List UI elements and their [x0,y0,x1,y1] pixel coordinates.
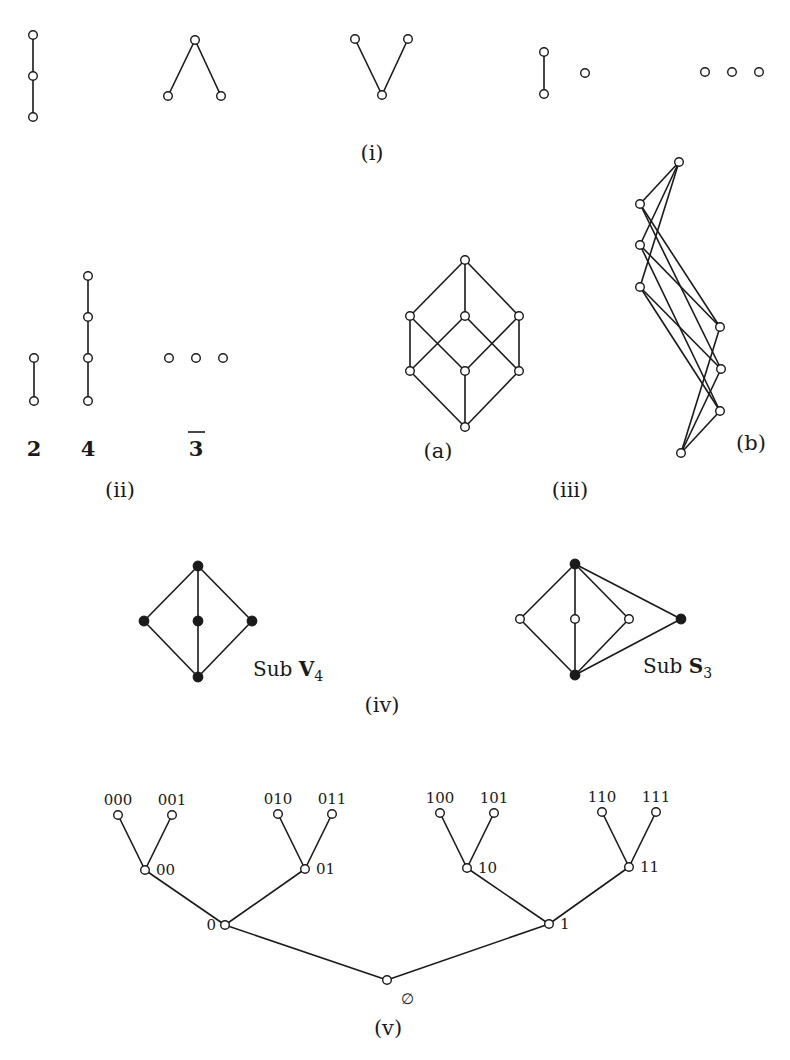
cube-a-edge [465,260,519,316]
vee-edge [355,39,382,95]
antichain-3-node [701,68,710,77]
caption-b: (b) [736,431,766,455]
poset-figure: (i) 2 4 3 (ii) (a) (b) (iii) Sub V4 Sub … [0,0,790,1060]
antichain-3-node [728,68,737,77]
label-sub-s3: Sub S3 [643,654,712,681]
label-chain-2: 2 [27,436,42,461]
antichain-3-node [219,354,228,363]
chain-4-node [84,272,93,281]
tree-edge [602,812,629,867]
cube-a-node [461,256,470,265]
label-sub-v4-symbol: V [298,657,315,681]
sub-s3-edge [575,619,629,675]
sub-s3-node [676,614,686,624]
cube-b-node [636,241,645,250]
cube-a-node [406,367,415,376]
tree-node-00 [141,866,150,875]
cube-b-edge [640,287,720,411]
tree-node-100 [436,809,445,818]
sub-s3-edge [520,619,575,675]
chain-3-node [29,72,38,81]
chain-2-plus-point-node [540,48,549,57]
tree-edge [118,815,145,870]
sub-s3-edge [520,564,575,619]
chain-2-node [30,354,39,363]
cube-a-node [461,312,470,321]
tree-node-1 [545,920,554,929]
cube-a-node [461,423,470,432]
lambda-edge [195,40,221,96]
cube-a-edge [410,371,465,427]
tree-node-10 [463,864,472,873]
tree-node-0 [221,921,230,930]
tree-label-11: 11 [640,858,659,876]
sub-v4-edge [144,566,198,621]
cube-a-node [515,312,524,321]
sub-v4-node [193,561,203,571]
cube-b-node [636,283,645,292]
sub-v4-edge [198,566,252,621]
tree-label-111: 111 [642,788,671,806]
label-chain-4: 4 [81,436,96,461]
cube-b-node [675,158,684,167]
vee-node [404,35,413,44]
cube-b-node [716,407,725,416]
tree-edge [225,925,387,980]
tree-label-00: 00 [156,861,175,879]
tree-label-101: 101 [480,789,509,807]
tree-node-001 [168,811,177,820]
tree-label-110: 110 [588,788,617,806]
tree-label-010: 010 [264,790,293,808]
caption-a: (a) [424,439,453,463]
antichain-3-node [755,68,764,77]
sub-v4-node [247,616,257,626]
cube-b-edge [640,162,679,287]
sub-v4-edge [144,621,198,677]
lambda-node [191,36,200,45]
sub-s3-node [570,670,580,680]
lambda-node [164,92,173,101]
label-sub-v4-prefix: Sub [253,657,299,681]
edges-layer [33,35,721,980]
sub-v4-node [139,616,149,626]
label-sub-s3-symbol: S [689,654,703,678]
label-sub-s3-prefix: Sub [643,654,689,678]
sub-s3-node [625,615,634,624]
cube-b-edge [640,287,721,369]
tree-label-001: 001 [158,791,187,809]
sub-s3-edge [575,564,681,619]
sub-v4-edge [198,621,252,677]
tree-label-000: 000 [104,791,133,809]
tree-node-01 [301,865,310,874]
cube-a-edge [410,260,465,316]
chain-2-plus-point-node [540,90,549,99]
cube-a-node [515,367,524,376]
sub-v4-node [193,672,203,682]
cube-b-edge [640,204,720,327]
chain-2-plus-point-node [581,69,590,78]
chain-4-node [84,354,93,363]
chain-2-node [30,397,39,406]
tree-label-100: 100 [426,789,455,807]
antichain-3-node [165,354,174,363]
caption-v: (v) [374,1016,402,1040]
nodes-layer [29,31,764,985]
cube-b-node [716,323,725,332]
tree-node-101 [490,809,499,818]
caption-iv: (iv) [365,693,400,717]
lambda-edge [168,40,195,96]
tree-label-1: 1 [560,915,570,933]
cube-b-node [636,200,645,209]
label-sub-s3-subscript: 3 [703,665,712,681]
sub-s3-node [516,615,525,624]
caption-i: (i) [360,141,383,165]
tree-label-011: 011 [318,790,347,808]
tree-label-10: 10 [478,859,497,877]
cube-a-node [406,312,415,321]
chain-4-node [84,397,93,406]
cube-b-edge [640,245,720,327]
tree-node-root [383,976,392,985]
label-sub-v4-subscript: 4 [314,668,323,684]
tree-edge [387,924,549,980]
chain-3-node [29,113,38,122]
